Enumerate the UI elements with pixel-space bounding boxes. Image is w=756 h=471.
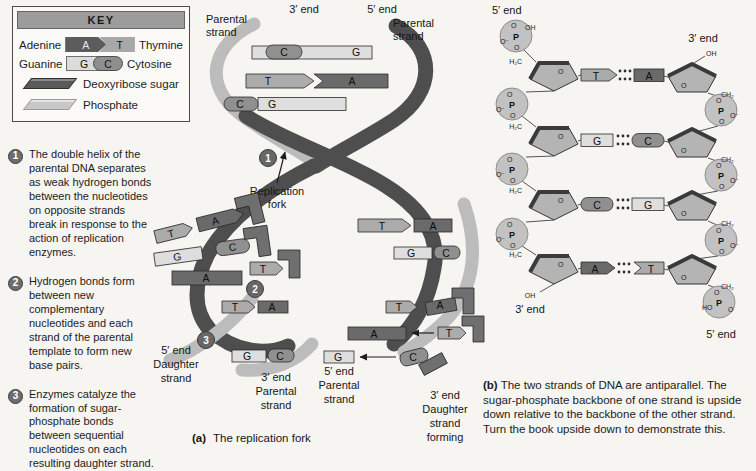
incoming-base: C — [409, 351, 417, 363]
chem-o-minus: O⁻ — [730, 112, 739, 119]
chem-p: P — [509, 100, 515, 110]
rung-2: H₂C O G C O CH₂ — [509, 123, 734, 163]
phosphate-group: O P HO O — [702, 286, 735, 318]
panel-a-figure: C G T A C G Parental strand 3′ end 5′ en… — [146, 0, 490, 456]
phosphate-group: O P O⁻ O — [496, 218, 528, 250]
bond-line — [694, 56, 705, 63]
chem-o-minus: O⁻ — [496, 106, 505, 113]
chem-o: O — [510, 242, 516, 249]
chem-ch2: CH₂ — [721, 283, 734, 290]
phosphate-icon — [23, 99, 78, 110]
base-letter: C — [276, 350, 284, 362]
ring-o: O — [681, 82, 687, 89]
parental-strand-right-label: strand — [393, 30, 424, 42]
chem-ch2: CH₂ — [721, 220, 734, 227]
top-rung-2: T A — [246, 74, 388, 88]
base-letter: A — [591, 263, 598, 275]
base-letter: G — [644, 199, 652, 211]
chem-p: P — [716, 298, 722, 308]
daughter-strand-forming-label: strand — [430, 417, 461, 429]
parental-strand-left-label: Parental — [206, 13, 247, 25]
caption-b-prefix: (b) — [483, 379, 498, 391]
caption-b-text: The two strands of DNA are antiparallel.… — [483, 379, 741, 435]
parental-strand-bottom-right-label: strand — [324, 393, 355, 405]
ring-o: O — [558, 68, 564, 75]
bond-line — [522, 116, 536, 127]
chem-o: O — [507, 221, 513, 228]
parental-strand-bottom-right-label: 5′ end — [324, 365, 354, 377]
top-rung-3: C G — [224, 97, 346, 111]
base-letter: G — [352, 46, 360, 58]
parental-strand-bottom-left-label: 3′ end — [261, 371, 291, 383]
base-letter: T — [593, 70, 600, 82]
phosphate-group: O OH P O⁻ O — [500, 20, 536, 52]
ring-o: O — [681, 147, 687, 154]
three-prime-end-top-label: 3′ end — [289, 3, 319, 15]
phosphate-group: O P O⁻ O — [705, 224, 739, 256]
step-2-text: Hydrogen bonds form between new compleme… — [29, 275, 154, 373]
step-3-badge: 3 — [8, 389, 23, 404]
bond-line — [540, 284, 554, 292]
step-1-text: The double helix of the parental DNA sep… — [29, 148, 154, 260]
cytosine-shape: C — [93, 56, 123, 71]
parental-strand-bottom-left-label: strand — [261, 399, 292, 411]
parental-strand-bottom-right-label: Parental — [319, 379, 360, 391]
chem-o: O — [507, 156, 513, 163]
chem-p: P — [509, 165, 515, 175]
chem-o: O — [510, 112, 516, 119]
step-2-badge: 2 — [8, 276, 23, 291]
sugar-block — [278, 250, 300, 278]
bond-line — [522, 246, 536, 255]
chem-p: P — [718, 236, 724, 246]
chem-o: O — [719, 248, 725, 255]
chem-o: O — [716, 97, 722, 104]
chem-o: O — [716, 227, 722, 234]
caption-a-prefix: (a) — [192, 432, 206, 444]
step-3: 3 Enzymes catalyze the formation of suga… — [8, 388, 154, 471]
chem-ch2: CH₂ — [721, 91, 734, 98]
ring-o: O — [558, 197, 564, 204]
template-base: A — [202, 272, 209, 284]
ring-o: O — [681, 210, 687, 217]
ring-o: O — [558, 133, 564, 140]
top-rung-1: C G — [252, 45, 372, 59]
phosphate-group: O P O⁻ O — [496, 153, 528, 185]
chem-h2c: H₂C — [509, 187, 522, 194]
chem-o: O — [507, 91, 513, 98]
right-new-rung-1: T A — [358, 219, 452, 232]
chem-ch2: CH₂ — [721, 156, 734, 163]
base-letter: T — [232, 301, 239, 313]
ring-o: O — [681, 274, 687, 281]
base-letter: T — [379, 220, 386, 232]
step-2: 2 Hydrogen bonds form between new comple… — [8, 275, 154, 373]
base-letter: C — [644, 135, 652, 147]
daughter-strand-forming-label: 3′ end — [430, 389, 460, 401]
base-letter: C — [593, 199, 601, 211]
parental-strand-right-label: Parental — [393, 17, 434, 29]
chem-h2c: H₂C — [509, 251, 522, 258]
ring-o: O — [558, 261, 564, 268]
parental-strand-left-label: strand — [206, 26, 237, 38]
step-1: 1 The double helix of the parental DNA s… — [8, 148, 154, 260]
step-1-marker-number: 1 — [265, 153, 271, 164]
left-new-rung-2: G C — [232, 349, 294, 362]
chem-o-minus: O⁻ — [496, 171, 505, 178]
caption-b: (b) The two strands of DNA are antiparal… — [483, 378, 751, 437]
base-letter: G — [593, 135, 601, 147]
incoming-base: T — [446, 327, 453, 339]
template-base: A — [370, 328, 377, 340]
chem-p: P — [718, 106, 724, 116]
chem-o-minus: O⁻ — [496, 236, 505, 243]
chem-oh: OH — [525, 24, 536, 31]
phosphate-label: Phosphate — [83, 99, 138, 111]
base-letter: G — [407, 247, 415, 259]
daughter-strand-left-label: Daughter — [153, 358, 199, 370]
template-base: T — [396, 301, 403, 313]
daughter-strand-forming-label: forming — [427, 431, 464, 443]
chem-o-minus: O⁻ — [730, 177, 739, 184]
incoming-base: A — [436, 299, 443, 311]
chem-o: O — [719, 183, 725, 190]
chem-ho: HO — [702, 304, 713, 311]
base-letter: G — [243, 350, 251, 362]
daughter-strand-left-label: strand — [161, 372, 192, 384]
